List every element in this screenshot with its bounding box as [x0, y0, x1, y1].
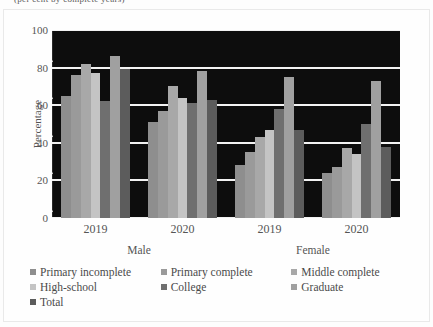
x-year-label: 2020 — [313, 222, 400, 240]
legend-label: Graduate — [301, 281, 343, 293]
x-year-label: 2019 — [226, 222, 313, 240]
bar — [245, 152, 255, 218]
legend-swatch-icon — [161, 269, 167, 275]
bar-groups — [52, 30, 400, 218]
legend-item[interactable]: Total — [30, 296, 161, 308]
x-gender-label: Male — [52, 244, 226, 262]
legend-label: Primary complete — [171, 266, 253, 278]
bar — [294, 130, 304, 218]
bar — [81, 64, 91, 218]
plot-area — [52, 30, 400, 218]
x-year-label: 2020 — [139, 222, 226, 240]
y-tick-label: 80 — [37, 62, 48, 73]
bar — [110, 56, 120, 218]
bar — [100, 101, 110, 218]
legend-label: High-school — [40, 281, 97, 293]
bar — [332, 167, 342, 218]
bar-group — [139, 30, 226, 218]
clipped-caption: (per cent by complete years) — [0, 0, 433, 9]
bar — [207, 100, 217, 218]
bar — [197, 71, 207, 218]
bar — [361, 124, 371, 218]
bar — [322, 173, 332, 218]
x-year-label: 2019 — [52, 222, 139, 240]
legend-item[interactable]: High-school — [30, 281, 161, 293]
legend-item[interactable]: Primary incomplete — [30, 266, 161, 278]
bar — [71, 75, 81, 218]
y-tick-label: 20 — [37, 175, 48, 186]
bar — [371, 81, 381, 218]
legend-item[interactable]: Middle complete — [291, 266, 422, 278]
legend-swatch-icon — [30, 284, 36, 290]
y-axis-title: Percentage — [31, 74, 43, 174]
legend-label: Middle complete — [301, 266, 379, 278]
bar — [168, 86, 178, 218]
bar — [148, 122, 158, 218]
legend-label: Total — [40, 296, 63, 308]
legend-item[interactable]: Graduate — [291, 281, 422, 293]
legend-swatch-icon — [30, 269, 36, 275]
y-tick-label: 0 — [43, 213, 49, 224]
bar — [91, 73, 101, 218]
x-gender-label: Female — [226, 244, 400, 262]
legend-swatch-icon — [30, 299, 36, 305]
bar-group — [313, 30, 400, 218]
bar — [158, 111, 168, 218]
x-axis-gender-labels: MaleFemale — [52, 244, 400, 262]
bar — [178, 98, 188, 218]
x-axis-year-labels: 2019202020192020 — [52, 222, 400, 240]
legend-label: Primary incomplete — [40, 266, 131, 278]
bar — [352, 154, 362, 218]
bar — [235, 165, 245, 218]
bar — [255, 137, 265, 218]
chart-page: (per cent by complete years) Percentage … — [0, 0, 433, 327]
bar — [120, 69, 130, 218]
y-tick-label: 100 — [32, 25, 49, 36]
y-axis-labels: Percentage 020406080100 — [18, 30, 48, 218]
y-tick-label: 40 — [37, 137, 48, 148]
legend-label: College — [171, 281, 207, 293]
bar — [342, 148, 352, 218]
legend-swatch-icon — [291, 269, 297, 275]
bar — [61, 96, 71, 218]
bar-group — [226, 30, 313, 218]
bar-group — [52, 30, 139, 218]
legend-item[interactable]: Primary complete — [161, 266, 292, 278]
bar — [274, 109, 284, 218]
plot-background — [52, 30, 400, 218]
chart-card: Percentage 020406080100 2019202020192020… — [3, 9, 430, 322]
bar — [187, 103, 197, 218]
y-tick-label: 60 — [37, 100, 48, 111]
bar — [381, 147, 391, 218]
bar — [284, 77, 294, 218]
legend-item[interactable]: College — [161, 281, 292, 293]
legend-swatch-icon — [161, 284, 167, 290]
legend-swatch-icon — [291, 284, 297, 290]
chart-legend: Primary incompletePrimary completeMiddle… — [30, 266, 422, 308]
bar — [265, 130, 275, 218]
